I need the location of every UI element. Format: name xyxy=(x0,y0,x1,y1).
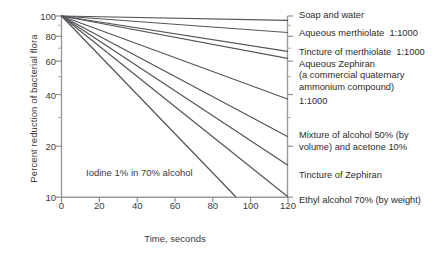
x-tick-label-0: 0 xyxy=(59,200,64,211)
x-axis-title: Time, seconds xyxy=(60,233,290,244)
series-label-aqueous-zephiran-line1: Aqueous Zephiran xyxy=(299,59,375,70)
y-tick-label-20: 20 xyxy=(22,141,56,152)
series-label-aqueous-zephiran-line2: (a commercial quaternary xyxy=(299,70,404,81)
series-label-alcohol-acetone-line2: volume) and acetone 10% xyxy=(299,142,407,153)
series-line-alcohol-acetone xyxy=(62,16,288,99)
series-label-aqueous-zephiran-line3: ammonium compound) xyxy=(299,82,394,93)
series-label-aqueous-zephiran-line4: 1:1000 xyxy=(299,96,327,107)
y-tick-label-100: 100 xyxy=(22,11,56,22)
series-label-tincture-merthiolate: Tincture of merthiolate 1:1000 xyxy=(299,47,425,58)
series-label-tincture-zephiran: Tincture of Zephiran xyxy=(299,170,382,181)
x-tick-label-20: 20 xyxy=(94,200,105,211)
series-line-tincture-zephiran xyxy=(62,16,288,165)
y-tick-labels: 100 80 60 40 20 10 xyxy=(22,0,56,259)
y-tick-label-60: 60 xyxy=(22,56,56,67)
x-tick-label-100: 100 xyxy=(243,200,259,211)
annotation-iodine: Iodine 1% in 70% alcohol xyxy=(86,167,193,178)
x-tick-label-60: 60 xyxy=(170,200,181,211)
series-label-aqueous-merthiolate: Aqueous merthiolate 1:1000 xyxy=(299,28,418,39)
y-tick-label-80: 80 xyxy=(22,31,56,42)
series-label-ethyl-alcohol: Ethyl alcohol 70% (by weight) xyxy=(299,195,421,206)
x-tick-label-80: 80 xyxy=(208,200,219,211)
x-tick-label-40: 40 xyxy=(132,200,143,211)
y-tick-label-10: 10 xyxy=(22,192,56,203)
chart-figure: Percent reduction of bacterial flora Tim… xyxy=(0,0,444,259)
y-major-ticks xyxy=(56,16,62,197)
series-label-soap-and-water: Soap and water xyxy=(299,10,364,21)
right-axis-ticks xyxy=(288,16,294,197)
y-tick-label-40: 40 xyxy=(22,89,56,100)
x-tick-label-120: 120 xyxy=(280,200,296,211)
series-label-alcohol-acetone-line1: Mixture of alcohol 50% (by xyxy=(299,130,409,141)
